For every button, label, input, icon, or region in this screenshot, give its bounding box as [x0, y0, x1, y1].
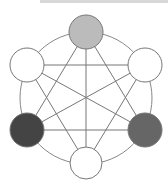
complete-graph-diagram — [0, 0, 168, 189]
node-upper-right — [128, 48, 162, 82]
edges — [27, 32, 145, 163]
node-top — [69, 15, 103, 49]
node-lower-left — [10, 113, 44, 147]
node-lower-right — [128, 113, 162, 147]
node-bottom — [70, 147, 102, 179]
node-upper-left — [10, 48, 44, 82]
